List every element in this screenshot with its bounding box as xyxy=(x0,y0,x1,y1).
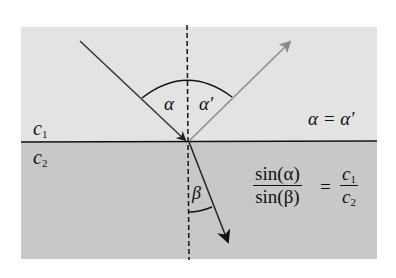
alpha-prime-label: α′ xyxy=(199,93,213,115)
medium-1-label: c1 xyxy=(33,117,47,140)
refraction-diagram xyxy=(0,0,396,278)
reflection-equation: α = α′ xyxy=(308,108,354,130)
beta-label: β xyxy=(192,183,201,204)
snell-fraction-rhs: c1 c2 xyxy=(340,163,358,208)
snell-fraction-lhs: sin(α) sin(β) xyxy=(253,163,302,208)
alpha-label: α xyxy=(164,93,174,115)
boundary-line xyxy=(21,141,377,142)
snell-equals: = xyxy=(320,176,331,198)
medium-2-label: c2 xyxy=(33,146,47,169)
